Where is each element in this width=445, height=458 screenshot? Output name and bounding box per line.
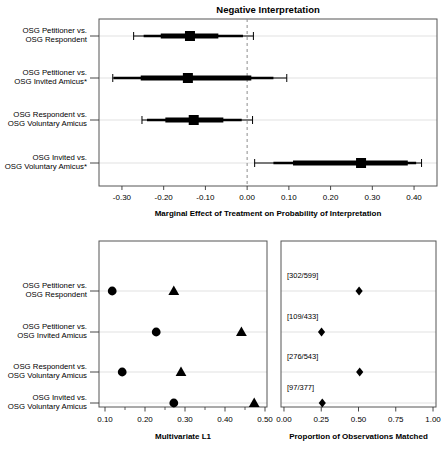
xtick-label-l1-2: 0.30 [177,415,193,424]
panel-title-negative-interpretation: Negative Interpretation [216,4,320,15]
row-label-l1-0-line1: OSG Petitioner vs. [22,281,87,290]
marker-circle-l1-3 [169,399,178,408]
annotation-matched-counts-0: [302/599] [287,271,318,280]
marker-circle-l1-0 [108,287,117,296]
figure-root: Negative Interpretation-0.30-0.20-0.100.… [0,0,445,458]
row-label-l1-2-line2: OSG Voluntary Amicus [8,371,87,380]
point-estimate-square-2 [189,115,199,125]
xtick-label-l1-0: 0.10 [97,415,113,424]
xtick-label-prop-1: 0.25 [313,415,329,424]
marker-diamond-prop-2 [356,367,363,376]
xtick-label-4: 0.10 [281,193,297,202]
row-label-top-3-line1: OSG Invited vs. [32,153,87,162]
point-estimate-square-0 [185,31,195,41]
row-label-top-3-line2: OSG Voluntary Amicus* [5,162,87,171]
row-label-l1-2-line1: OSG Respondent vs. [13,362,87,371]
marker-circle-l1-2 [118,368,127,377]
marker-diamond-prop-1 [318,327,325,336]
xaxis-label-multivariate-l1: Multivariate L1 [155,432,212,441]
marker-triangle-l1-1 [236,327,247,336]
figure-canvas: Negative Interpretation-0.30-0.20-0.100.… [0,0,445,458]
xtick-label-6: 0.30 [365,193,381,202]
row-label-l1-3-line2: OSG Voluntary Amicus [8,402,87,411]
xtick-label-7: 0.40 [406,193,422,202]
marker-diamond-prop-3 [319,398,326,407]
xtick-label-3: 0.00 [239,193,255,202]
marker-circle-l1-1 [152,328,161,337]
xtick-label-prop-2: 0.50 [351,415,367,424]
marker-diamond-prop-0 [356,286,363,295]
xaxis-label-proportion-matched: Proportion of Observations Matched [289,432,428,441]
point-estimate-square-3 [356,158,366,168]
marker-triangle-l1-0 [168,286,179,295]
xtick-label-prop-4: 1.00 [425,415,441,424]
panel-frame-multivariate-l1 [99,241,267,407]
row-label-top-2-line2: OSG Voluntary Amicus [8,119,87,128]
marker-triangle-l1-2 [176,367,187,376]
annotation-matched-counts-1: [109/433] [287,312,318,321]
xtick-label-prop-0: 0.00 [276,415,292,424]
row-label-top-0-line2: OSG Respondent [25,35,87,44]
point-estimate-square-1 [183,73,193,83]
xtick-label-0: -0.30 [113,193,132,202]
row-label-top-2-line1: OSG Respondent vs. [13,110,87,119]
xtick-label-l1-3: 0.40 [217,415,233,424]
row-label-l1-0-line2: OSG Respondent [25,290,87,299]
annotation-matched-counts-2: [276/543] [287,352,318,361]
row-label-l1-3-line1: OSG Invited vs. [32,393,87,402]
row-label-top-1-line2: OSG Invited Amicus* [14,77,87,86]
xtick-label-1: -0.20 [155,193,174,202]
row-label-l1-1-line2: OSG Invited Amicus [17,331,87,340]
row-label-top-0-line1: OSG Petitioner vs. [22,26,87,35]
xtick-label-l1-4: 0.50 [257,415,273,424]
row-label-top-1-line1: OSG Petitioner vs. [22,68,87,77]
xtick-label-prop-3: 0.75 [388,415,404,424]
xaxis-label-marginal-effect: Marginal Effect of Treatment on Probabil… [155,209,382,218]
row-label-l1-1-line1: OSG Petitioner vs. [22,322,87,331]
marker-triangle-l1-3 [249,398,260,407]
annotation-matched-counts-3: [97/377] [287,383,314,392]
xtick-label-l1-1: 0.20 [137,415,153,424]
xtick-label-2: -0.10 [196,193,215,202]
xtick-label-5: 0.20 [323,193,339,202]
